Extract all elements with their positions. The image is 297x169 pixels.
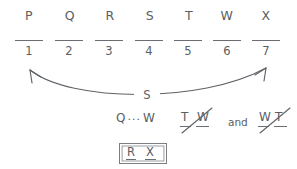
result-second-underline bbox=[145, 159, 156, 160]
variable-letter-r: R bbox=[97, 8, 123, 23]
variable-letters-row: P Q R S T W X bbox=[0, 8, 297, 28]
variable-letter-q: Q bbox=[57, 8, 83, 23]
result-first-underline bbox=[126, 159, 136, 160]
arrow-label-s: S bbox=[134, 88, 160, 102]
variable-letter-s: S bbox=[137, 8, 163, 23]
slot-7: 7 bbox=[251, 40, 281, 58]
scratchwork-diagram: P Q R S T W X 1 2 3 4 5 6 bbox=[0, 0, 297, 169]
slot-blank-line bbox=[55, 40, 83, 41]
constraint-notes: Q...W T W and W T bbox=[0, 110, 297, 140]
slot-6: 6 bbox=[212, 40, 242, 58]
slot-1: 1 bbox=[14, 40, 44, 58]
slot-number: 7 bbox=[251, 44, 281, 58]
slot-5: 5 bbox=[173, 40, 203, 58]
eliminated-pair-tw: T W bbox=[180, 110, 220, 136]
variable-letter-p: P bbox=[16, 8, 42, 23]
variable-letter-w: W bbox=[214, 8, 240, 23]
slot-blank-line bbox=[15, 40, 43, 41]
slot-blank-line bbox=[95, 40, 123, 41]
slot-2: 2 bbox=[54, 40, 84, 58]
slot-number: 2 bbox=[54, 44, 84, 58]
slot-number: 1 bbox=[14, 44, 44, 58]
slot-4: 4 bbox=[134, 40, 164, 58]
variable-letter-t: T bbox=[176, 8, 202, 23]
slot-blank-line bbox=[135, 40, 163, 41]
slot-number: 3 bbox=[94, 44, 124, 58]
eliminated-pair-wt: W T bbox=[258, 110, 297, 136]
slot-number: 6 bbox=[212, 44, 242, 58]
result-box-rx: R X bbox=[119, 143, 167, 164]
slot-blank-line bbox=[252, 40, 280, 41]
slot-number: 4 bbox=[134, 44, 164, 58]
sequence-ellipsis: ... bbox=[125, 110, 143, 123]
slot-blank-line bbox=[213, 40, 241, 41]
slot-3: 3 bbox=[94, 40, 124, 58]
strikethrough-slash-icon bbox=[180, 106, 218, 136]
result-first-letter: R bbox=[127, 145, 135, 159]
slot-blank-line bbox=[174, 40, 202, 41]
strikethrough-slash-icon bbox=[258, 106, 296, 136]
note-conjunction-and: and bbox=[228, 116, 248, 128]
result-second-letter: X bbox=[146, 145, 154, 159]
slot-number: 5 bbox=[173, 44, 203, 58]
note-sequence-q-w: Q...W bbox=[116, 110, 155, 125]
variable-letter-x: X bbox=[253, 8, 279, 23]
sequence-second-letter: W bbox=[143, 111, 155, 125]
